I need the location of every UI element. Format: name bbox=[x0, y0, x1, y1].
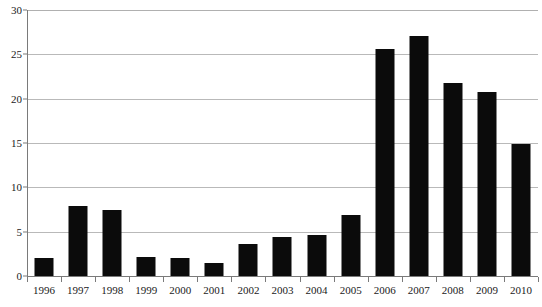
y-axis-tick-label: 5 bbox=[17, 226, 28, 237]
bar-2010[interactable] bbox=[511, 144, 530, 276]
x-axis-tick-label: 2008 bbox=[442, 285, 464, 296]
x-tick-mark bbox=[129, 277, 130, 282]
bar-slot-2009 bbox=[470, 10, 504, 276]
x-axis-tick-label: 1997 bbox=[67, 285, 89, 296]
x-axis-tick-label: 2004 bbox=[306, 285, 328, 296]
x-axis-tick-label: 2005 bbox=[340, 285, 362, 296]
bar-chart: 051015202530 199619971998199920002001200… bbox=[0, 0, 542, 307]
y-axis-line bbox=[27, 10, 28, 277]
bar-1997[interactable] bbox=[69, 206, 88, 276]
bar-2002[interactable] bbox=[239, 244, 258, 276]
y-axis-tick-label: 15 bbox=[11, 138, 27, 149]
bar-slot-2006 bbox=[368, 10, 402, 276]
bar-2003[interactable] bbox=[273, 237, 292, 276]
x-tick-mark bbox=[368, 277, 369, 282]
x-tick-mark bbox=[95, 277, 96, 282]
bar-2000[interactable] bbox=[171, 258, 190, 276]
x-tick-mark bbox=[265, 277, 266, 282]
bar-2005[interactable] bbox=[341, 215, 360, 276]
bar-2008[interactable] bbox=[443, 83, 462, 276]
x-axis-tick-label: 2000 bbox=[169, 285, 191, 296]
bar-1996[interactable] bbox=[35, 258, 54, 276]
x-tick-mark bbox=[231, 277, 232, 282]
bar-2001[interactable] bbox=[205, 263, 224, 276]
x-axis-line bbox=[27, 276, 538, 277]
x-tick-mark bbox=[334, 277, 335, 282]
x-axis-tick-label: 1998 bbox=[101, 285, 123, 296]
bar-2007[interactable] bbox=[409, 36, 428, 276]
bar-slot-2002 bbox=[231, 10, 265, 276]
bar-slot-2001 bbox=[197, 10, 231, 276]
x-tick-mark bbox=[163, 277, 164, 282]
x-axis-tick-label: 1999 bbox=[135, 285, 157, 296]
y-axis-tick-label: 10 bbox=[11, 182, 27, 193]
x-tick-mark bbox=[538, 277, 539, 282]
bar-slot-1998 bbox=[95, 10, 129, 276]
y-axis-tick-label: 0 bbox=[17, 271, 28, 282]
x-axis-tick-label: 2006 bbox=[374, 285, 396, 296]
bar-slot-1999 bbox=[129, 10, 163, 276]
bar-2004[interactable] bbox=[307, 235, 326, 276]
bar-2009[interactable] bbox=[477, 92, 496, 276]
bar-slot-2000 bbox=[163, 10, 197, 276]
x-axis-tick-label: 2001 bbox=[203, 285, 225, 296]
x-axis-tick-label: 2003 bbox=[272, 285, 294, 296]
x-tick-mark bbox=[402, 277, 403, 282]
x-tick-mark bbox=[197, 277, 198, 282]
plot-area: 051015202530 bbox=[27, 10, 538, 276]
x-axis-tick-label: 2007 bbox=[408, 285, 430, 296]
x-tick-mark bbox=[436, 277, 437, 282]
y-axis-tick-label: 30 bbox=[11, 5, 27, 16]
bar-slot-1997 bbox=[61, 10, 95, 276]
x-tick-mark bbox=[504, 277, 505, 282]
bar-2006[interactable] bbox=[375, 49, 394, 276]
y-axis-tick-label: 25 bbox=[11, 49, 27, 60]
x-axis-tick-label: 1996 bbox=[33, 285, 55, 296]
x-axis-tick-label: 2002 bbox=[237, 285, 259, 296]
bar-slot-2004 bbox=[300, 10, 334, 276]
bar-slot-2007 bbox=[402, 10, 436, 276]
bar-slot-2005 bbox=[334, 10, 368, 276]
x-tick-mark bbox=[470, 277, 471, 282]
bar-slot-2003 bbox=[265, 10, 299, 276]
x-axis-tick-label: 2010 bbox=[510, 285, 532, 296]
x-tick-mark bbox=[27, 277, 28, 282]
bar-slot-1996 bbox=[27, 10, 61, 276]
bar-slot-2010 bbox=[504, 10, 538, 276]
bar-slot-2008 bbox=[436, 10, 470, 276]
bars-layer bbox=[27, 10, 538, 276]
bar-1999[interactable] bbox=[137, 257, 156, 276]
x-tick-mark bbox=[300, 277, 301, 282]
x-axis-tick-label: 2009 bbox=[476, 285, 498, 296]
x-tick-mark bbox=[61, 277, 62, 282]
bar-1998[interactable] bbox=[103, 210, 122, 277]
y-axis-tick-label: 20 bbox=[11, 93, 27, 104]
